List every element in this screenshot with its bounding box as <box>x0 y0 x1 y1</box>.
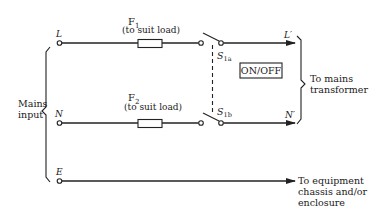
output-brace <box>297 36 305 124</box>
terminal-label-L: L <box>55 29 62 39</box>
terminal-E <box>57 179 62 184</box>
fuse-F1-note: (to suit load) <box>122 25 180 35</box>
input-brace <box>42 47 50 182</box>
terminal-label-N-out: N′ <box>284 110 295 120</box>
switch-S1b-label: S1b <box>217 106 232 119</box>
switch-S1a-left-terminal <box>199 41 204 46</box>
switch-S1b-left-terminal <box>199 121 204 126</box>
circuit-diagram: Mains input L F1 (to suit load) S1a L′ O… <box>0 0 377 215</box>
switch-S1a-right-terminal <box>219 41 224 46</box>
terminal-L <box>57 41 62 46</box>
input-label-line1: Mains <box>18 98 48 109</box>
on-off-label: ON/OFF <box>241 65 282 76</box>
switch-S1b-right-terminal <box>219 121 224 126</box>
terminal-label-E: E <box>55 167 63 177</box>
terminal-label-L-out: L′ <box>283 30 292 40</box>
transformer-label-line1: To mains <box>310 73 353 84</box>
fuse-F1 <box>138 40 162 48</box>
terminal-label-N: N <box>54 109 64 119</box>
fuse-F2-note: (to suit load) <box>124 102 182 112</box>
input-label-line2: input <box>18 109 43 120</box>
terminal-N <box>57 121 62 126</box>
chassis-label-line3: enclosure <box>298 197 345 208</box>
chassis-label-line2: chassis and/or <box>298 186 368 197</box>
fuse-F2 <box>138 120 162 128</box>
switch-S1a-blade <box>203 33 219 41</box>
chassis-label-line1: To equipment <box>298 175 364 186</box>
transformer-label-line2: transformer <box>310 84 368 95</box>
switch-S1a-label: S1a <box>217 50 232 63</box>
